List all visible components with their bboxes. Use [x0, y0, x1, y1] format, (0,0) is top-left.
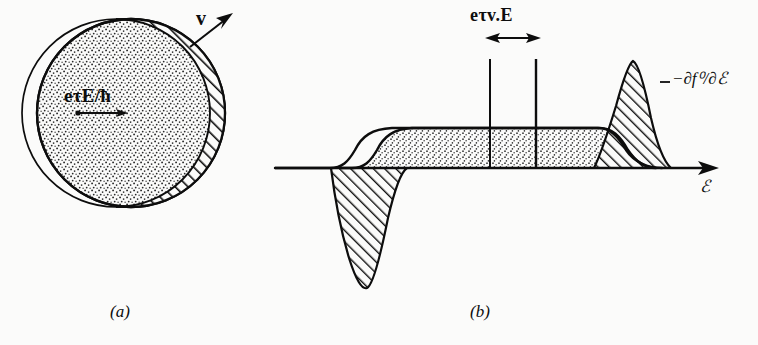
energy-width-arrow: [485, 33, 541, 43]
figure-drawing: [0, 0, 758, 345]
figure-container: eτE/ħ v eτv.E −∂f⁰/∂ℰ ℰ (a) (b): [0, 0, 758, 345]
derivative-peak-hatched: [594, 61, 671, 168]
energy-axis-label: ℰ: [700, 178, 710, 195]
energy-width-label: eτv.E: [470, 6, 513, 24]
panel-b-group: [275, 33, 719, 288]
panel-b-caption: (b): [470, 303, 490, 320]
panel-a-caption: (a): [110, 303, 130, 320]
panel-a-group: [22, 13, 233, 207]
velocity-label: v: [196, 8, 206, 28]
displacement-label: eτE/ħ: [64, 86, 111, 105]
negative-lobe-hatched: [331, 168, 407, 288]
derivative-label: −∂f⁰/∂ℰ: [672, 70, 727, 87]
